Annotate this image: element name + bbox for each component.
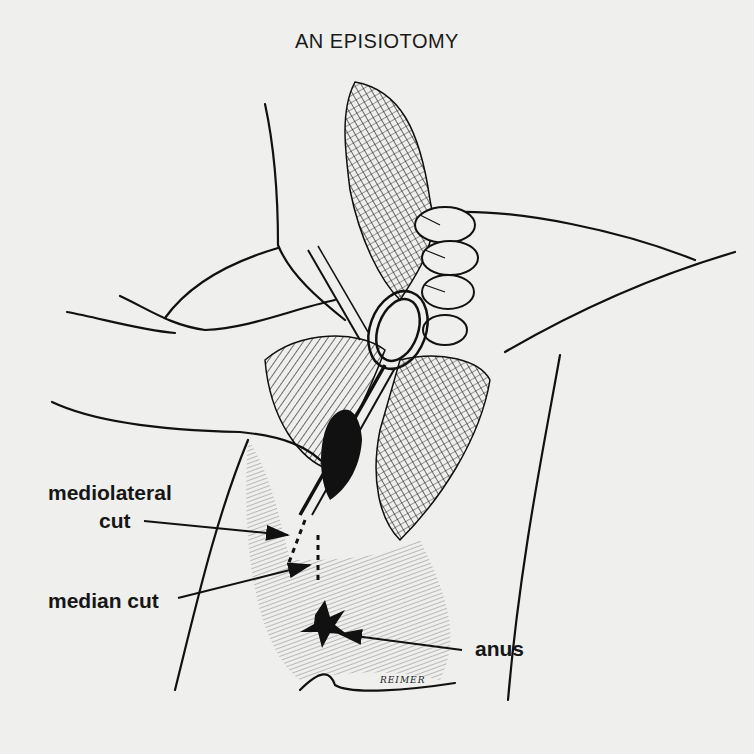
label-mediolateral: mediolateral — [48, 480, 172, 506]
artist-signature: REIMER — [380, 675, 425, 685]
episiotomy-illustration — [0, 0, 754, 754]
label-mediolateral-cut: cut — [99, 508, 131, 534]
hatched-vulva — [246, 336, 490, 680]
hatched-upper — [345, 82, 478, 345]
illustration-page: AN EPISIOTOMY mediolateral cut median cu… — [0, 0, 754, 754]
label-median-cut: median cut — [48, 588, 159, 614]
figure-title: AN EPISIOTOMY — [0, 30, 754, 53]
label-anus: anus — [475, 636, 524, 662]
